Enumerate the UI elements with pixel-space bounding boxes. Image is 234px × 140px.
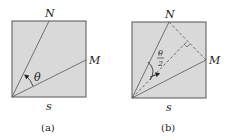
M-label-a: M bbox=[88, 54, 101, 67]
figure-a: θ N M s (a) bbox=[12, 7, 101, 133]
square-a bbox=[12, 21, 86, 97]
N-label-a: N bbox=[44, 7, 55, 20]
theta-label-a: θ bbox=[34, 71, 41, 84]
theta-num-b: θ bbox=[158, 49, 163, 58]
diagram-canvas: θ N M s (a) θ 2 N M s (b) bbox=[0, 0, 234, 140]
s-label-a: s bbox=[46, 100, 52, 113]
caption-a: (a) bbox=[41, 122, 55, 133]
caption-b: (b) bbox=[161, 122, 175, 133]
theta-den-b: 2 bbox=[157, 59, 163, 68]
N-label-b: N bbox=[164, 8, 175, 21]
s-label-b: s bbox=[166, 101, 172, 114]
M-label-b: M bbox=[208, 54, 221, 67]
figure-b: θ 2 N M s (b) bbox=[132, 8, 221, 133]
